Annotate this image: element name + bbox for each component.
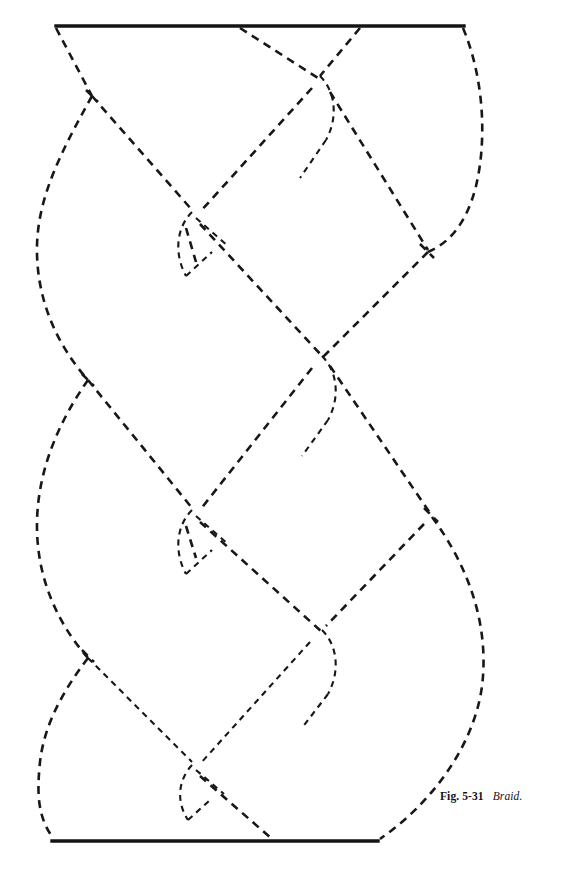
segment-topbar-to-c2-left (320, 28, 360, 76)
cusp-arc-c6 (322, 356, 336, 420)
stub-c8 (424, 508, 438, 522)
segment-left-arc-middle (37, 380, 88, 658)
cusp-tail-c10 (302, 694, 328, 728)
segment-c3-to-c6 (200, 224, 322, 356)
cusp-arc-c2 (320, 76, 334, 140)
cusp-link-c11 (196, 770, 224, 794)
segment-c3-inner-down (186, 228, 196, 262)
cusp-arc-c10 (322, 630, 336, 694)
figure-caption: Fig. 5-31Braid. (440, 789, 522, 803)
figure-number: Fig. 5-31 (440, 790, 484, 802)
stub-c9 (82, 650, 94, 662)
segment-topleft-to-c1 (56, 28, 92, 96)
cusp-link-c7 (196, 516, 228, 544)
segment-c2-to-c3 (200, 88, 312, 212)
crossing-cusps-group (178, 76, 335, 820)
segment-c4-to-c6 (323, 252, 428, 357)
segment-c7-to-c10 (200, 522, 322, 632)
strand-left-group (37, 28, 92, 838)
segment-c11-to-bottom (200, 776, 272, 839)
segment-c8-to-c10 (326, 524, 424, 626)
strand-center-left-group (186, 28, 424, 764)
segment-c2-to-c4 (330, 92, 428, 250)
figure-title: Braid. (493, 790, 523, 802)
segment-c6-to-c8 (330, 366, 430, 513)
cusp-tail-c11 (188, 800, 210, 820)
segment-top-to-c2 (240, 28, 318, 78)
cusp-arc-c11 (180, 765, 192, 820)
braid-figure: Fig. 5-31Braid. (0, 0, 565, 874)
segment-c6-to-c7 (200, 368, 312, 510)
cusp-link-c3 (196, 218, 228, 246)
cusp-tail-c2 (300, 140, 326, 178)
segment-c5-to-c7 (88, 380, 192, 508)
cusp-tail-c3 (186, 252, 212, 276)
cusp-tail-c6 (302, 420, 328, 456)
braid-diagram (0, 0, 565, 874)
segment-left-arc-lower (38, 658, 88, 838)
segment-c7-inner-down (186, 526, 196, 558)
segment-c10-to-c11 (200, 642, 310, 764)
cusp-tail-c7 (186, 550, 212, 574)
segment-c1-to-c3 (92, 96, 192, 210)
segment-topright-to-c4 (428, 28, 482, 252)
segment-left-arc-upper (37, 96, 92, 380)
segment-c9-to-c11 (88, 658, 192, 762)
crossing-stubs-group (82, 90, 438, 662)
strand-center-right-group (88, 28, 428, 839)
strand-right-group (323, 28, 484, 839)
